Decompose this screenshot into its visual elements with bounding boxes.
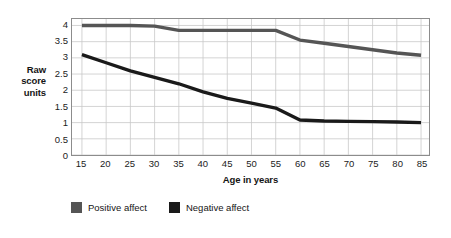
y-tick-label: 2 bbox=[46, 85, 68, 95]
x-tick-label: 75 bbox=[360, 158, 386, 170]
series-line bbox=[82, 55, 421, 123]
x-axis-title: Age in years bbox=[71, 174, 430, 185]
y-tick-label: 3.5 bbox=[46, 36, 68, 46]
legend-label: Negative affect bbox=[186, 202, 249, 213]
plot-area bbox=[71, 18, 430, 156]
y-axis-title-line-1: Raw bbox=[0, 64, 46, 75]
x-tick-label: 45 bbox=[214, 158, 240, 170]
legend-swatch-icon bbox=[169, 202, 180, 213]
chart-figure: Raw score units 00.511.522.533.54 152025… bbox=[0, 0, 451, 238]
x-tick-label: 15 bbox=[68, 158, 94, 170]
series-line bbox=[82, 25, 421, 55]
x-tick-label: 35 bbox=[165, 158, 191, 170]
x-tick-label: 50 bbox=[239, 158, 265, 170]
x-tick-label: 55 bbox=[263, 158, 289, 170]
y-tick-label: 4 bbox=[46, 20, 68, 30]
y-tick-label: 0 bbox=[46, 151, 68, 161]
y-axis-title-line-3: units bbox=[0, 87, 46, 98]
x-tick-label: 25 bbox=[117, 158, 143, 170]
x-tick-label: 80 bbox=[385, 158, 411, 170]
x-tick-label: 40 bbox=[190, 158, 216, 170]
x-axis-tick-labels: 152025303540455055606570758085 bbox=[71, 158, 430, 172]
y-axis-tick-labels: 00.511.522.533.54 bbox=[46, 18, 68, 156]
legend-item: Negative affect bbox=[169, 202, 249, 213]
legend-label: Positive affect bbox=[88, 202, 147, 213]
legend-item: Positive affect bbox=[71, 202, 147, 213]
y-axis-title-line-2: score bbox=[0, 75, 46, 86]
y-tick-label: 1 bbox=[46, 118, 68, 128]
legend-swatch-icon bbox=[71, 202, 82, 213]
x-tick-label: 20 bbox=[92, 158, 118, 170]
chart-legend: Positive affectNegative affect bbox=[71, 199, 401, 215]
x-tick-label: 65 bbox=[312, 158, 338, 170]
x-tick-label: 85 bbox=[409, 158, 435, 170]
x-tick-label: 60 bbox=[287, 158, 313, 170]
y-tick-label: 0.5 bbox=[46, 135, 68, 145]
y-tick-label: 3 bbox=[46, 52, 68, 62]
x-tick-label: 30 bbox=[141, 158, 167, 170]
data-series-lines bbox=[72, 19, 429, 155]
y-tick-label: 1.5 bbox=[46, 102, 68, 112]
y-axis-title: Raw score units bbox=[0, 64, 46, 98]
y-tick-label: 2.5 bbox=[46, 69, 68, 79]
x-tick-label: 70 bbox=[336, 158, 362, 170]
